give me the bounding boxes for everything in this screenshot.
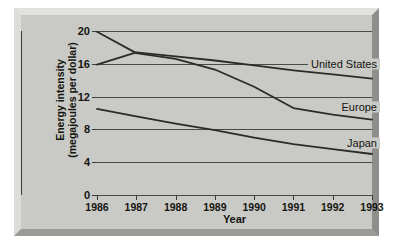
x-axis-tick bbox=[333, 195, 334, 200]
x-axis-title: Year bbox=[97, 213, 372, 225]
x-axis-tick bbox=[97, 195, 98, 200]
y-axis-tick-label: 8 bbox=[84, 124, 90, 135]
x-axis-tick-label: 1986 bbox=[85, 202, 108, 213]
x-axis-tick bbox=[254, 195, 255, 200]
series-label-europe: Europe bbox=[339, 102, 380, 113]
x-axis-tick-label: 1989 bbox=[203, 202, 226, 213]
x-axis-tick bbox=[176, 195, 177, 200]
chart-figure-frame: Energy intensity (megajoules per dollar)… bbox=[14, 8, 379, 236]
y-axis-line bbox=[21, 31, 22, 195]
series-label-japan: Japan bbox=[344, 138, 380, 149]
x-axis-tick bbox=[372, 195, 373, 200]
x-axis-tick-label: 1990 bbox=[242, 202, 265, 213]
x-axis-tick-label: 1991 bbox=[282, 202, 305, 213]
x-axis-tick-label: 1993 bbox=[360, 202, 383, 213]
y-axis-tick-label: 16 bbox=[78, 58, 90, 69]
x-axis-tick bbox=[136, 195, 137, 200]
y-axis-title: Energy intensity (megajoules per dollar) bbox=[31, 69, 61, 159]
series-line-japan bbox=[97, 109, 372, 154]
x-axis-tick-label: 1987 bbox=[125, 202, 148, 213]
x-axis-tick bbox=[215, 195, 216, 200]
plot-area: 048121620 United StatesEuropeJapan bbox=[97, 31, 372, 195]
y-axis-tick-label: 20 bbox=[78, 26, 90, 37]
series-line-europe bbox=[97, 32, 372, 120]
x-axis-tick bbox=[293, 195, 294, 200]
x-axis-tick-label: 1988 bbox=[164, 202, 187, 213]
x-axis-tick-label: 1992 bbox=[321, 202, 344, 213]
y-axis-tick-label: 0 bbox=[84, 190, 90, 201]
y-axis-tick-label: 4 bbox=[84, 157, 90, 168]
chart-canvas: Energy intensity (megajoules per dollar)… bbox=[21, 15, 372, 229]
series-lines bbox=[97, 31, 372, 195]
series-label-united-states: United States bbox=[308, 58, 380, 69]
y-axis-tick-label: 12 bbox=[78, 91, 90, 102]
